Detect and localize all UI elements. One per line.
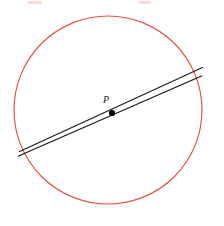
circle-outline bbox=[14, 16, 202, 204]
chord-upper bbox=[20, 68, 203, 152]
geometry-figure: P bbox=[0, 0, 224, 226]
chord-lower bbox=[19, 76, 202, 156]
point-p-dot bbox=[109, 110, 115, 116]
point-p-label: P bbox=[102, 94, 109, 105]
figure-canvas: P bbox=[0, 0, 224, 226]
